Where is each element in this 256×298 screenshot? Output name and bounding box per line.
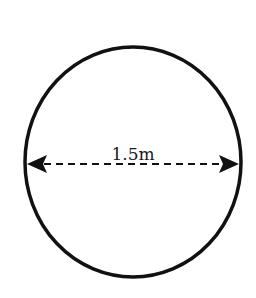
diameter-label: 1.5m [111, 144, 154, 164]
circle-diagram: 1.5m [0, 0, 256, 298]
